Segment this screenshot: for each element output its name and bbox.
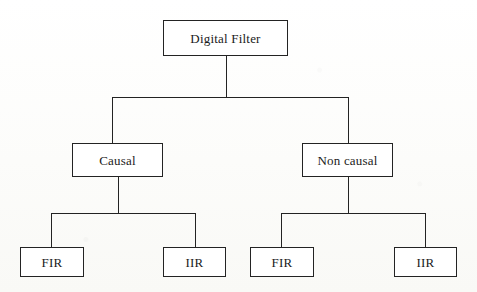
node-causal-fir[interactable]: FIR: [20, 247, 84, 277]
connector-drop-to-non-causal: [348, 97, 349, 143]
node-non-causal-label: Non causal: [317, 154, 377, 167]
node-causal[interactable]: Causal: [72, 143, 163, 177]
node-digital-filter[interactable]: Digital Filter: [163, 20, 288, 56]
node-non-causal[interactable]: Non causal: [302, 143, 393, 177]
connector-drop-to-causal-fir: [51, 213, 52, 247]
connector-drop-to-non-causal-iir: [425, 213, 426, 247]
connector-drop-to-causal-iir: [195, 213, 196, 247]
connector-bus-top: [112, 97, 348, 98]
connector-non-causal-stem: [348, 177, 349, 213]
connector-drop-to-causal: [112, 97, 113, 143]
connector-bus-causal: [51, 213, 195, 214]
digital-filter-tree-diagram: Digital Filter Causal Non causal FIR IIR…: [0, 0, 477, 292]
node-non-causal-fir[interactable]: FIR: [250, 247, 314, 277]
node-causal-fir-label: FIR: [42, 256, 63, 269]
node-non-causal-fir-label: FIR: [272, 256, 293, 269]
node-causal-label: Causal: [99, 154, 136, 167]
node-causal-iir-label: IIR: [186, 256, 204, 269]
connector-bus-non-causal: [281, 213, 425, 214]
connector-causal-stem: [118, 177, 119, 213]
node-causal-iir[interactable]: IIR: [163, 247, 226, 277]
connector-root-stem: [226, 56, 227, 97]
node-non-causal-iir-label: IIR: [417, 256, 435, 269]
node-non-causal-iir[interactable]: IIR: [394, 247, 457, 277]
connector-drop-to-non-causal-fir: [281, 213, 282, 247]
node-digital-filter-label: Digital Filter: [190, 32, 260, 45]
